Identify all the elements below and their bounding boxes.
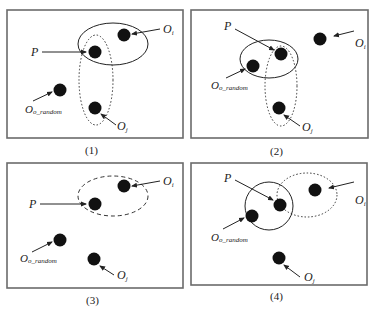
label-oi: Oi xyxy=(163,22,174,37)
node-oo-random xyxy=(246,210,259,223)
node-p xyxy=(275,48,288,61)
node-oj xyxy=(273,252,286,265)
label-p: P xyxy=(30,45,39,59)
dotted-ellipse xyxy=(277,173,337,217)
node-oj xyxy=(273,102,286,115)
node-oj xyxy=(89,102,102,115)
node-oi xyxy=(118,29,131,42)
panel-4-frame xyxy=(191,163,367,285)
solid-ellipse xyxy=(78,23,148,65)
label-oo: Oo_random xyxy=(211,79,248,92)
node-p xyxy=(89,46,102,59)
caption-2: (2) xyxy=(270,145,283,158)
diagram-figure: Oi P Oo_random Oj (1) Oi P Oo_random Oj … xyxy=(0,0,377,312)
arrow-p xyxy=(235,29,274,50)
panel-4: Oi P Oo_random Oj (4) xyxy=(191,163,367,303)
node-oo-random xyxy=(54,84,67,97)
node-oi xyxy=(314,33,327,46)
label-oj: Oj xyxy=(302,120,313,135)
panel-1: Oi P Oo_random Oj (1) xyxy=(7,10,183,157)
node-oj xyxy=(88,253,101,266)
caption-4: (4) xyxy=(270,290,283,303)
arrow-oi xyxy=(132,29,160,34)
label-p: P xyxy=(28,197,37,211)
arrow-oo xyxy=(226,69,245,78)
label-oo: Oo_random xyxy=(211,231,248,244)
arrow-oi xyxy=(132,181,160,186)
panel-2-frame xyxy=(191,10,368,138)
label-oi: Oi xyxy=(355,193,366,208)
label-oj: Oj xyxy=(117,268,128,283)
node-p xyxy=(274,199,287,212)
arrow-oi xyxy=(329,182,354,188)
arrow-p xyxy=(235,180,273,200)
label-oo: Oo_random xyxy=(20,252,57,265)
arrow-oj xyxy=(100,266,114,275)
node-oi xyxy=(118,180,131,193)
arrow-oj xyxy=(284,265,300,277)
node-p xyxy=(89,198,102,211)
panel-2: Oi P Oo_random Oj (2) xyxy=(191,10,368,158)
label-oo: Oo_random xyxy=(25,103,62,116)
label-oj: Oj xyxy=(304,270,315,285)
label-oi: Oi xyxy=(355,36,366,51)
label-p: P xyxy=(223,171,232,185)
node-oi xyxy=(309,184,322,197)
node-oo-random xyxy=(247,60,260,73)
panel-3: Oi P Oo_random Oj (3) xyxy=(7,163,183,307)
dashed-ellipse xyxy=(78,176,148,216)
arrow-oj xyxy=(284,115,300,126)
label-oj: Oj xyxy=(117,119,128,134)
caption-1: (1) xyxy=(85,144,98,157)
label-oi: Oi xyxy=(163,174,174,189)
arrow-oo xyxy=(33,92,52,101)
caption-3: (3) xyxy=(86,294,99,307)
node-oo-random xyxy=(54,234,67,247)
label-p: P xyxy=(223,19,232,33)
arrow-oo xyxy=(32,242,52,252)
arrow-oj xyxy=(101,114,116,125)
arrow-oi xyxy=(334,31,354,36)
arrow-oo xyxy=(223,218,244,229)
